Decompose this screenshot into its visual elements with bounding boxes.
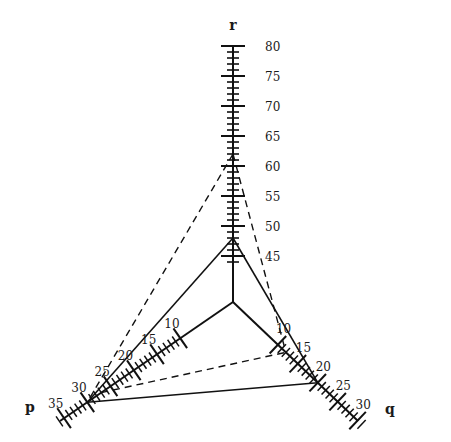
p-minor-tick (103, 384, 110, 394)
r-tick-label: 70 (265, 100, 280, 114)
p-tick-label: 35 (48, 397, 63, 411)
p-minor-tick (121, 372, 128, 382)
r-axis-name: r (229, 17, 237, 33)
q-tick-label: 30 (356, 398, 371, 412)
p-minor-tick (158, 346, 165, 356)
q-axis-line (233, 302, 358, 421)
q-axis-name: q (385, 401, 395, 417)
q-tick-label: 25 (336, 379, 351, 393)
p-tick-label: 25 (95, 365, 110, 379)
labels-group: 80757065605550451015202530351015202530rp… (25, 17, 395, 417)
p-minor-tick (75, 404, 82, 414)
p-minor-tick (168, 340, 175, 350)
r-tick-label: 55 (265, 190, 280, 204)
r-tick-label: 45 (265, 250, 280, 264)
p-minor-tick (149, 353, 156, 363)
index-lines-group (87, 154, 317, 402)
p-minor-tick (135, 362, 142, 372)
r-tick-label: 60 (265, 160, 280, 174)
p-minor-tick (126, 368, 133, 378)
q-tick-label: 10 (276, 322, 291, 336)
p-tick-label: 30 (71, 381, 86, 395)
p-major-tick (57, 408, 71, 428)
r-tick-label: 50 (265, 220, 280, 234)
p-minor-tick (144, 356, 151, 366)
q-tick-label: 15 (296, 341, 311, 355)
p-major-tick (150, 344, 164, 364)
p-axis-line (60, 302, 233, 421)
q-tick-label: 20 (316, 360, 331, 374)
nomogram-canvas: 80757065605550451015202530351015202530rp… (0, 0, 451, 442)
p-tick-label: 10 (164, 317, 179, 331)
r-tick-label: 75 (265, 70, 280, 84)
p-minor-tick (116, 375, 123, 385)
p-tick-label: 20 (118, 349, 133, 363)
p-minor-tick (112, 378, 119, 388)
p-major-tick (127, 360, 141, 380)
q-minor-tick (357, 420, 365, 429)
p-minor-tick (56, 416, 63, 426)
p-axis-name: p (25, 399, 35, 415)
p-minor-tick (163, 343, 170, 353)
p-minor-tick (70, 407, 77, 417)
r-tick-label: 65 (265, 130, 280, 144)
p-major-tick (173, 328, 187, 348)
p-minor-tick (140, 359, 147, 369)
p-major-tick (104, 376, 118, 396)
p-tick-label: 15 (141, 333, 156, 347)
solid-index-line (87, 383, 317, 403)
p-minor-tick (79, 400, 86, 410)
p-minor-tick (65, 410, 72, 420)
r-tick-label: 80 (265, 40, 280, 54)
p-minor-tick (172, 337, 179, 347)
